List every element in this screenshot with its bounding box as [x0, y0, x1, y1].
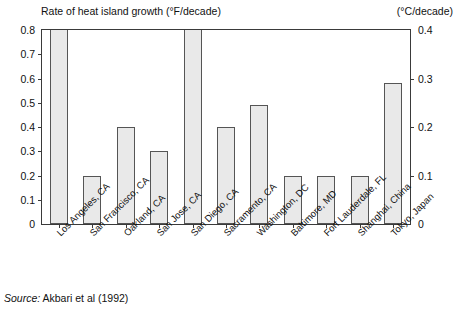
y-tick-label-left: 0 — [29, 219, 35, 230]
y-tick-left — [38, 176, 42, 177]
right-axis-title: (°C/decade) — [397, 5, 453, 17]
source-label: Source: — [4, 292, 40, 304]
y-tick-right — [410, 79, 414, 80]
y-tick-left — [38, 127, 42, 128]
y-tick-left — [38, 103, 42, 104]
left-axis-title: Rate of heat island growth (°F/decade) — [41, 5, 221, 17]
source-citation: Akbari et al (1992) — [40, 292, 128, 304]
y-tick-right — [410, 127, 414, 128]
y-tick-label-right: 0.4 — [418, 25, 433, 36]
y-tick-label-right: 0.2 — [418, 122, 433, 133]
y-tick-label-left: 0.5 — [20, 98, 35, 109]
y-tick-label-left: 0.6 — [20, 73, 35, 84]
y-tick-label-left: 0.1 — [20, 195, 35, 206]
y-tick-left — [38, 200, 42, 201]
y-tick-label-left: 0.8 — [20, 25, 35, 36]
y-tick-left — [38, 151, 42, 152]
bar — [50, 30, 68, 224]
y-tick-left — [38, 54, 42, 55]
y-tick-label-right: 0.3 — [418, 73, 433, 84]
source-note: Source: Akbari et al (1992) — [4, 292, 128, 304]
y-tick-label-left: 0.3 — [20, 146, 35, 157]
heat-island-growth-chart: Rate of heat island growth (°F/decade) (… — [0, 0, 465, 315]
y-tick-label-right: 0.1 — [418, 170, 433, 181]
y-tick-label-left: 0.7 — [20, 49, 35, 60]
y-tick-label-left: 0.4 — [20, 122, 35, 133]
y-tick-left — [38, 79, 42, 80]
y-tick-label-left: 0.2 — [20, 170, 35, 181]
y-tick-right — [410, 176, 414, 177]
y-tick-label-right: 0 — [418, 219, 424, 230]
